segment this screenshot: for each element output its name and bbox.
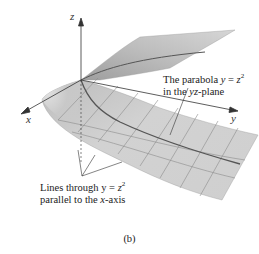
lines-annotation-line2: parallel to the x-axis [40,194,125,206]
y-axis-label: y [231,112,236,124]
surface-plot [0,0,259,254]
parabola-annotation: The parabola y = z2 in the yz-plane [163,70,244,98]
lines-leader-3 [82,162,122,176]
parabola-annotation-line2: in the yz-plane [163,86,244,98]
figure-caption: (b) [0,233,259,244]
x-axis-label: x [26,113,31,125]
lines-annotation: Lines through y = z2 parallel to the x-a… [40,178,125,206]
cylinder-surface-figure: z x y The parabola y = z2 in the yz-plan… [0,0,259,254]
lines-leader-2 [82,155,95,176]
z-axis-label: z [70,10,74,22]
lines-annotation-line1: Lines through y = z2 [40,178,125,194]
parabola-annotation-line1: The parabola y = z2 [163,70,244,86]
lines-leader-1 [78,150,82,176]
z-axis-arrow [79,18,84,26]
left-fold [42,80,81,125]
